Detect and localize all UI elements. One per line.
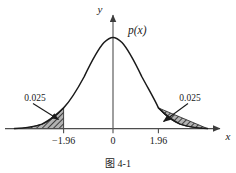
normal-distribution-plot: y x p(x) 0.025 0.025 −1.96 0 1.96 图 4-1: [0, 0, 236, 173]
x-axis-label: x: [225, 130, 231, 142]
x-tick-label-neg-1-96: −1.96: [52, 135, 75, 146]
curve-label-p-of-x: p(x): [127, 24, 147, 37]
figure-caption: 图 4-1: [105, 158, 131, 169]
left-area-leader-line: [33, 104, 59, 120]
y-axis-label: y: [97, 3, 103, 15]
figure-container: y x p(x) 0.025 0.025 −1.96 0 1.96 图 4-1: [0, 0, 236, 173]
left-tail-area-label: 0.025: [24, 93, 46, 103]
x-axis-ticks: [64, 129, 159, 134]
right-tail-area-label: 0.025: [179, 93, 201, 103]
density-curve: [15, 37, 208, 128]
x-tick-label-pos-1-96: 1.96: [150, 135, 168, 146]
x-tick-label-zero: 0: [111, 135, 116, 146]
